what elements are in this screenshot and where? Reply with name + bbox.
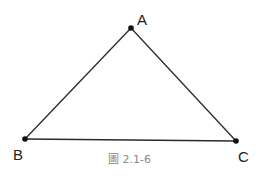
label-a: A (137, 11, 147, 28)
segment-bc (25, 139, 236, 141)
triangle-diagram: A B C 圖 2.1-6 (0, 0, 265, 179)
figure-caption: 圖 2.1-6 (108, 153, 151, 166)
label-c: C (238, 148, 249, 165)
point-b (22, 136, 28, 142)
point-a (128, 25, 134, 31)
segment-ab (25, 28, 131, 139)
label-b: B (13, 146, 23, 163)
segment-ca (131, 28, 236, 141)
point-c (233, 138, 239, 144)
